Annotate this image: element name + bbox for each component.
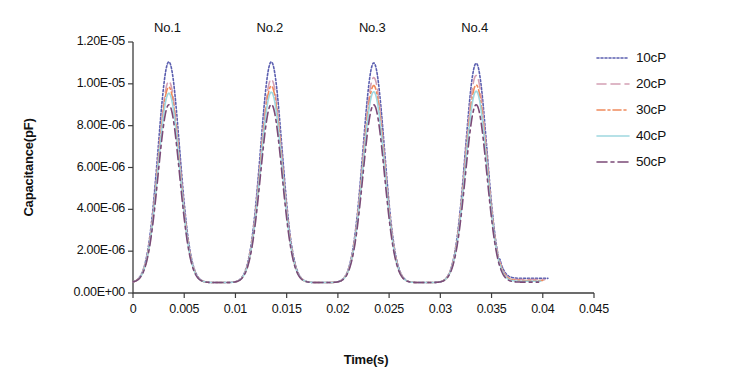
legend-label: 50cP: [636, 154, 666, 169]
peak-label: No.3: [359, 20, 386, 35]
y-axis-tick-label: 2.00E-06: [20, 243, 125, 257]
legend-item-10cp[interactable]: 10cP: [596, 50, 666, 65]
x-axis-title: Time(s): [296, 352, 436, 367]
y-axis-tick-label: 6.00E-06: [20, 160, 125, 174]
legend-line-swatch: [596, 157, 630, 167]
series-line-20cp: [133, 75, 545, 282]
legend-label: 10cP: [636, 50, 666, 65]
y-axis-tick-label: 4.00E-06: [20, 201, 125, 215]
legend-label: 20cP: [636, 76, 666, 91]
peak-label: No.1: [154, 20, 181, 35]
legend-item-50cp[interactable]: 50cP: [596, 154, 666, 169]
series-line-50cp: [133, 104, 539, 282]
legend-item-30cp[interactable]: 30cP: [596, 102, 666, 117]
legend-label: 30cP: [636, 102, 666, 117]
legend-line-swatch: [596, 105, 630, 115]
legend-label: 40cP: [636, 128, 666, 143]
x-axis-tick-label: 0.045: [564, 302, 624, 316]
y-axis-tick-label: 0.00E+00: [20, 285, 125, 299]
peak-label: No.2: [256, 20, 283, 35]
series-line-40cp: [133, 91, 541, 282]
y-axis-tick-label: 1.00E-05: [20, 76, 125, 90]
chart-figure: Capacitance(pF) Time(s) 0.00E+002.00E-06…: [0, 0, 744, 387]
y-axis-tick-label: 8.00E-06: [20, 118, 125, 132]
peak-label: No.4: [461, 20, 488, 35]
legend-line-swatch: [596, 131, 630, 141]
legend-item-40cp[interactable]: 40cP: [596, 128, 666, 143]
chart-series-curves: [133, 62, 548, 283]
legend-item-20cp[interactable]: 20cP: [596, 76, 666, 91]
series-line-10cp: [133, 62, 548, 283]
legend-line-swatch: [596, 79, 630, 89]
y-axis-tick-label: 1.20E-05: [20, 34, 125, 48]
legend-line-swatch: [596, 53, 630, 63]
